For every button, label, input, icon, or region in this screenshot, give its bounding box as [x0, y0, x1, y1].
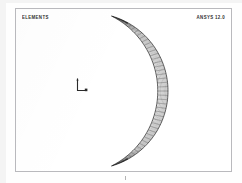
page-artifact-mark: [125, 176, 126, 180]
scan-edge-left: [0, 0, 6, 183]
page-root: ELEMENTS ANSYS 12.0: [0, 0, 242, 183]
plot-frame: ELEMENTS ANSYS 12.0: [15, 8, 232, 172]
scan-edge-top: [0, 0, 242, 3]
element-mesh-plot: [16, 9, 233, 173]
